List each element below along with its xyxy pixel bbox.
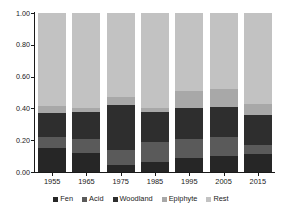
bar-segment-epiphyte (210, 89, 238, 106)
bar-segment-epiphyte (175, 91, 203, 108)
bar-segment-rest (141, 13, 169, 108)
bar-segment-woodland (38, 113, 66, 137)
y-axis-tick-mark (31, 108, 34, 109)
stacked-bar-chart: 0.000.200.400.600.801.00 195519651975198… (0, 0, 282, 215)
bar-segment-rest (72, 13, 100, 108)
bar-group (72, 13, 100, 172)
y-axis-tick-label: 0.40 (0, 105, 30, 112)
legend-item-woodland[interactable]: Woodland (113, 195, 153, 203)
y-axis-tick-label: 0.80 (0, 41, 30, 48)
legend-item-label: Rest (213, 195, 228, 203)
legend-item-epiphyte[interactable]: Epiphyte (162, 195, 198, 203)
bar-segment-woodland (175, 108, 203, 138)
legend-swatch-icon (53, 197, 58, 202)
legend-item-label: Fen (60, 195, 73, 203)
y-axis-ticks: 0.000.200.400.600.801.00 (0, 0, 34, 215)
bar-group (210, 13, 238, 172)
bar-group (38, 13, 66, 172)
x-axis-tick-mark (86, 173, 87, 176)
bar-group (175, 13, 203, 172)
y-axis-tick-mark (31, 77, 34, 78)
x-axis-tick-mark (121, 173, 122, 176)
x-axis-tick-label: 1965 (69, 178, 103, 186)
legend-item-rest[interactable]: Rest (206, 195, 228, 203)
bar-segment-rest (210, 13, 238, 89)
legend-item-fen[interactable]: Fen (53, 195, 73, 203)
x-axis-tick-mark (155, 173, 156, 176)
bar-segment-fen (107, 165, 135, 172)
bar-segment-fen (72, 153, 100, 172)
bar-group (244, 13, 272, 172)
x-axis-tick-label: 1995 (172, 178, 206, 186)
legend-item-label: Acid (89, 195, 103, 203)
y-axis-tick-mark (31, 172, 34, 173)
bar-segment-acid (210, 137, 238, 156)
bar-segment-rest (107, 13, 135, 97)
plot-area (35, 13, 275, 172)
bar-segment-fen (141, 162, 169, 172)
bar-segment-fen (38, 148, 66, 172)
y-axis-tick-mark (31, 13, 34, 14)
chart-legend: FenAcidWoodlandEpiphyteRest (0, 195, 282, 203)
legend-swatch-icon (113, 197, 118, 202)
bar-segment-rest (244, 13, 272, 104)
bar-segment-fen (244, 154, 272, 172)
bar-segment-epiphyte (38, 106, 66, 113)
y-axis-tick-label: 1.00 (0, 10, 30, 17)
bar-segment-woodland (244, 115, 272, 145)
bar-segment-rest (38, 13, 66, 106)
bar-segment-epiphyte (72, 108, 100, 112)
legend-swatch-icon (82, 197, 87, 202)
y-axis-tick-mark (31, 140, 34, 141)
bar-segment-rest (175, 13, 203, 91)
bar-segment-woodland (141, 112, 169, 142)
bar-segment-woodland (72, 112, 100, 139)
legend-item-acid[interactable]: Acid (82, 195, 103, 203)
bar-segment-woodland (210, 107, 238, 137)
bar-segment-acid (107, 150, 135, 165)
x-axis-tick-label: 2005 (207, 178, 241, 186)
bar-segment-fen (210, 156, 238, 172)
x-axis-tick-label: 1975 (104, 178, 138, 186)
x-axis-tick-mark (189, 173, 190, 176)
x-axis-tick-mark (258, 173, 259, 176)
x-axis-tick-mark (224, 173, 225, 176)
bar-segment-epiphyte (107, 97, 135, 105)
legend-item-label: Epiphyte (169, 195, 198, 203)
x-axis-tick-label: 2015 (241, 178, 275, 186)
x-axis-tick-label: 1985 (138, 178, 172, 186)
legend-swatch-icon (162, 197, 167, 202)
x-axis-tick-mark (52, 173, 53, 176)
bar-segment-epiphyte (141, 108, 169, 112)
bar-segment-acid (175, 139, 203, 158)
bar-group (141, 13, 169, 172)
y-axis-tick-label: 0.60 (0, 73, 30, 80)
legend-item-label: Woodland (120, 195, 153, 203)
y-axis-tick-mark (31, 45, 34, 46)
bar-segment-fen (175, 158, 203, 172)
y-axis-tick-label: 0.00 (0, 169, 30, 176)
x-axis-tick-label: 1955 (35, 178, 69, 186)
y-axis-tick-label: 0.20 (0, 137, 30, 144)
legend-swatch-icon (206, 197, 211, 202)
bar-segment-acid (38, 137, 66, 148)
bar-group (107, 13, 135, 172)
bar-segment-acid (72, 139, 100, 153)
bar-segment-acid (244, 145, 272, 154)
bar-segment-acid (141, 142, 169, 162)
bar-segment-epiphyte (244, 104, 272, 114)
bar-segment-woodland (107, 105, 135, 150)
